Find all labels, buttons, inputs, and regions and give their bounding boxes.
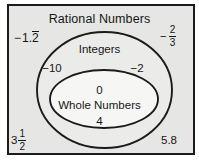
fraction-denominator: 3: [169, 38, 177, 48]
set-label-whole-numbers: Whole Numbers: [0, 100, 199, 112]
minus-sign: −: [14, 31, 21, 45]
fraction-denominator: 2: [18, 142, 26, 152]
minus-sign: −: [160, 31, 167, 43]
value-zero: 0: [0, 85, 199, 97]
value-four: 4: [0, 116, 199, 128]
value-negative-two-thirds: − 2 3: [160, 25, 176, 48]
repeating-digit-overbar: 2: [32, 31, 39, 45]
value-negative-ten: −10: [0, 63, 104, 75]
venn-diagram-root: Rational Numbers Integers Whole Numbers …: [0, 0, 199, 162]
mixed-whole-part: 3: [11, 135, 17, 147]
fraction: 2 3: [169, 25, 177, 48]
fraction-numerator: 1: [18, 129, 26, 139]
fraction: 1 2: [18, 129, 26, 152]
value-negative-two: −2: [102, 63, 172, 75]
integer-part: 1.: [22, 31, 32, 45]
fraction-numerator: 2: [169, 25, 177, 35]
value-five-point-eight: 5.8: [161, 135, 177, 147]
value-three-and-one-half: 3 1 2: [11, 129, 26, 152]
value-negative-one-point-two-repeating: −1.2: [14, 31, 39, 45]
